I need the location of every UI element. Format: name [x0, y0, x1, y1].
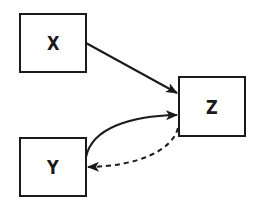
node-y: Y [19, 137, 87, 197]
edge-x-to-z [86, 43, 177, 93]
node-y-label: Y [47, 156, 59, 178]
node-z: Z [178, 76, 246, 137]
edge-y-to-z [86, 115, 177, 157]
node-x: X [19, 13, 87, 73]
node-z-label: Z [206, 96, 218, 118]
node-x-label: X [47, 32, 59, 54]
